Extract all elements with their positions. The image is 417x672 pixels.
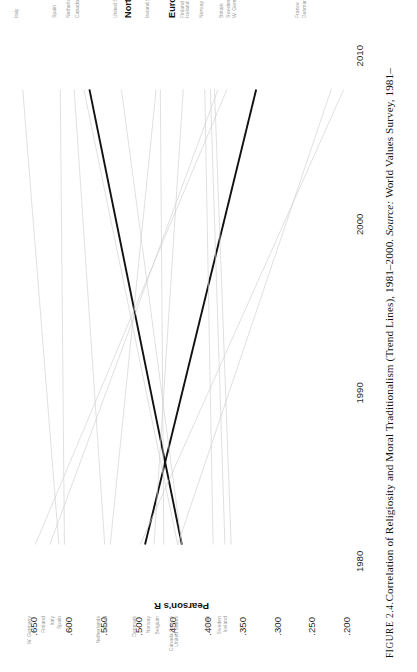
y-axis-title: Pearson's R [121,601,241,612]
trend-line [145,89,256,544]
figure-number: FIGURE 2.4. [384,602,394,658]
series-label: Netherlands [96,616,101,644]
series-label-group: Iceland [222,616,227,632]
trend-line [214,89,231,544]
trend-line [110,89,156,544]
series-label: Ireland [103,616,108,632]
series-label: France [294,2,299,18]
series-label-group: United States [173,616,178,647]
series-label: W. Germany [232,0,237,18]
series-label-group: W. Germany [232,0,237,18]
caption-source-label: Source: [382,201,394,236]
series-label-group: North America [123,0,132,18]
trend-line [204,89,212,544]
series-label: Norway [145,616,150,633]
x-axis-tick-label: 1980 [353,551,364,572]
figure-caption: FIGURE 2.4.Correlation of Religiosity an… [382,8,394,658]
series-label-group: Europe [167,0,176,18]
series-label-group: Italy [50,616,55,625]
x-axis-tick-label: 1990 [353,382,364,403]
series-label-group: Spain [51,5,56,18]
series-label-group: Canada [75,0,80,18]
series-label: Spain [51,5,56,18]
series-label: Iceland [185,2,190,18]
y-axis-tick-label: .600 [63,617,74,651]
series-label-group: Netherlands [65,0,70,18]
series-label-group: France [294,2,299,18]
x-axis-tick-label: 2000 [353,214,364,235]
trend-line [74,89,105,544]
series-label-group: Ireland Belgium [144,0,149,18]
series-label: Spain [57,616,62,629]
chart-plot-area: .650.600.550.500.450.400.350.300.250.200… [16,22,346,612]
series-label-group: Netherlands [96,616,101,644]
trend-line [140,89,344,544]
series-label: Belgium [155,616,160,634]
caption-text: Correlation of Religiosity and Moral Tra… [382,236,394,602]
series-label: W. Germany [26,616,31,644]
trend-line [89,89,181,544]
series-label: Italy [50,616,55,625]
series-label: North America [123,0,132,18]
series-label-group: Norway [145,616,150,633]
series-label: Denmark [131,616,136,637]
figure-2-4: .650.600.550.500.450.400.350.300.250.200… [0,0,417,672]
series-label: Britain [204,616,209,631]
series-label-group: Italy [14,9,19,18]
series-label: Canada [75,0,80,18]
trend-line [121,89,181,544]
y-axis-tick-label: .200 [341,617,352,651]
trend-line [60,89,64,544]
series-label-group: Denmark [131,616,136,637]
series-label-group: Norway [198,1,203,18]
series-label-group: Finland [41,616,46,633]
series-label: United States [112,0,117,18]
caption-source-text: World Values Survey, 1981– [382,68,394,201]
series-label-group: United States [112,0,117,18]
figure-page: .650.600.550.500.450.400.350.300.250.200… [0,0,417,672]
y-axis-tick-label: .300 [271,617,282,651]
series-label: Iceland [222,616,227,632]
series-label: Britain [218,3,223,18]
series-label-group: W. Germany [26,616,31,644]
series-label-group: Belgium [155,616,160,634]
series-label-group: Denmark [301,0,306,18]
series-label: Denmark [301,0,306,18]
series-label: Sweden [225,0,230,18]
series-label-group: Sweden [225,0,230,18]
series-label: Ireland Belgium [144,0,149,18]
series-label-group: Iceland [185,2,190,18]
series-label-group: Britain [204,616,209,631]
series-label-group: Ireland [103,616,108,632]
series-label: Norway [198,1,203,18]
x-axis-tick-label: 2010 [353,45,364,66]
y-axis-tick-label: .350 [236,617,247,651]
trend-lines-svg [16,22,346,612]
y-axis-tick-label: .250 [306,617,317,651]
series-label-group: Spain [57,616,62,629]
series-label: Europe [167,0,176,18]
series-label: Netherlands [65,0,70,18]
series-label-group: Britain [218,3,223,18]
series-label: Finland [41,616,46,633]
trend-line [22,89,58,544]
series-label: Italy [14,9,19,18]
series-label: United States [173,616,178,647]
